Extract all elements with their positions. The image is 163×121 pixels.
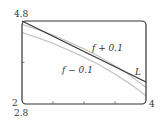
y-min-label: 2.8 bbox=[14, 108, 29, 118]
annotation-f-plus: f + 0.1 bbox=[91, 43, 123, 53]
x-min-label: 2 bbox=[12, 98, 18, 108]
annotation-f-minus: f − 0.1 bbox=[61, 65, 93, 75]
annotation-L: L bbox=[134, 67, 141, 77]
series-layer bbox=[22, 21, 146, 96]
series-f-0-1-line bbox=[22, 24, 146, 87]
chart-canvas: 4.8 2 2.8 4 f + 0.1 f − 0.1 L bbox=[0, 0, 163, 121]
x-max-label: 4 bbox=[149, 99, 155, 109]
plot-frame bbox=[22, 21, 146, 104]
y-max-label: 4.8 bbox=[14, 9, 29, 19]
